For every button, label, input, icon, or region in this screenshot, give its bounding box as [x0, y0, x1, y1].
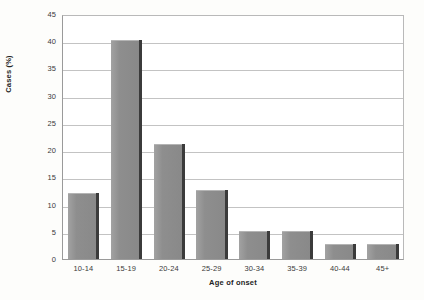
bar[interactable]: [239, 231, 267, 259]
x-tick-label: 10-14: [62, 263, 105, 275]
bar[interactable]: [282, 231, 310, 259]
bar[interactable]: [154, 144, 182, 259]
x-tick-label: 30-34: [233, 263, 276, 275]
x-tick-label: 25-29: [190, 263, 233, 275]
y-tick-label: 5: [32, 229, 56, 237]
x-tick-label: 35-39: [276, 263, 319, 275]
bars-container: [63, 16, 403, 259]
plot-area: [62, 15, 404, 260]
x-tick-label: 15-19: [105, 263, 148, 275]
bar[interactable]: [367, 244, 395, 259]
bar[interactable]: [196, 190, 224, 259]
y-tick-label: 30: [32, 93, 56, 101]
bar-chart-figure: Cases (%) 051015202530354045 10-1415-192…: [0, 0, 424, 300]
x-tick-label: 40-44: [319, 263, 362, 275]
bar[interactable]: [111, 40, 139, 259]
bar-slot: [149, 16, 192, 259]
y-tick-label: 10: [32, 202, 56, 210]
y-tick-label: 15: [32, 174, 56, 182]
x-axis-title: Age of onset: [62, 278, 404, 287]
bar-slot: [234, 16, 277, 259]
y-tick-label: 40: [32, 38, 56, 46]
bar-slot: [63, 16, 106, 259]
bar[interactable]: [68, 193, 96, 259]
y-tick-label: 20: [32, 147, 56, 155]
y-tick-label: 45: [32, 11, 56, 19]
y-tick-label: 25: [32, 120, 56, 128]
y-tick-label: 35: [32, 65, 56, 73]
x-tick-label: 45+: [361, 263, 404, 275]
bar[interactable]: [325, 244, 353, 259]
bar-slot: [362, 16, 405, 259]
bar-slot: [106, 16, 149, 259]
x-tick-label: 20-24: [148, 263, 191, 275]
x-axis-tick-labels: 10-1415-1920-2425-2930-3435-3940-4445+: [62, 263, 404, 277]
y-axis-tick-labels: 051015202530354045: [32, 10, 56, 260]
bar-slot: [191, 16, 234, 259]
bar-slot: [277, 16, 320, 259]
y-axis-title: Cases (%): [2, 29, 16, 119]
y-tick-label: 0: [32, 256, 56, 264]
bar-slot: [320, 16, 363, 259]
